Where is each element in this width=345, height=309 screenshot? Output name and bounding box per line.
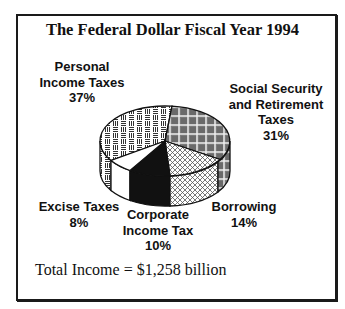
label-corporate-line2: Income Tax — [118, 223, 198, 239]
label-excise: Excise Taxes 8% — [34, 199, 124, 230]
label-borrowing-line1: Borrowing — [204, 199, 284, 215]
label-social: Social Security and Retirement Taxes 31% — [222, 81, 330, 143]
label-borrowing-pct: 14% — [204, 215, 284, 231]
label-corporate: Corporate Income Tax 10% — [118, 207, 198, 254]
label-borrowing: Borrowing 14% — [204, 199, 284, 230]
label-personal: Personal Income Taxes 37% — [32, 59, 132, 106]
label-excise-pct: 8% — [34, 215, 124, 231]
label-corporate-line1: Corporate — [118, 207, 198, 223]
label-social-line2: and Retirement — [222, 97, 330, 113]
label-social-pct: 31% — [222, 128, 330, 144]
label-excise-line1: Excise Taxes — [34, 199, 124, 215]
label-corporate-pct: 10% — [118, 238, 198, 254]
label-social-line1: Social Security — [222, 81, 330, 97]
label-personal-pct: 37% — [32, 90, 132, 106]
label-personal-line1: Personal — [32, 59, 132, 75]
label-social-line3: Taxes — [222, 112, 330, 128]
label-personal-line2: Income Taxes — [32, 75, 132, 91]
total-income-annotation: Total Income = $1,258 billion — [35, 261, 226, 279]
